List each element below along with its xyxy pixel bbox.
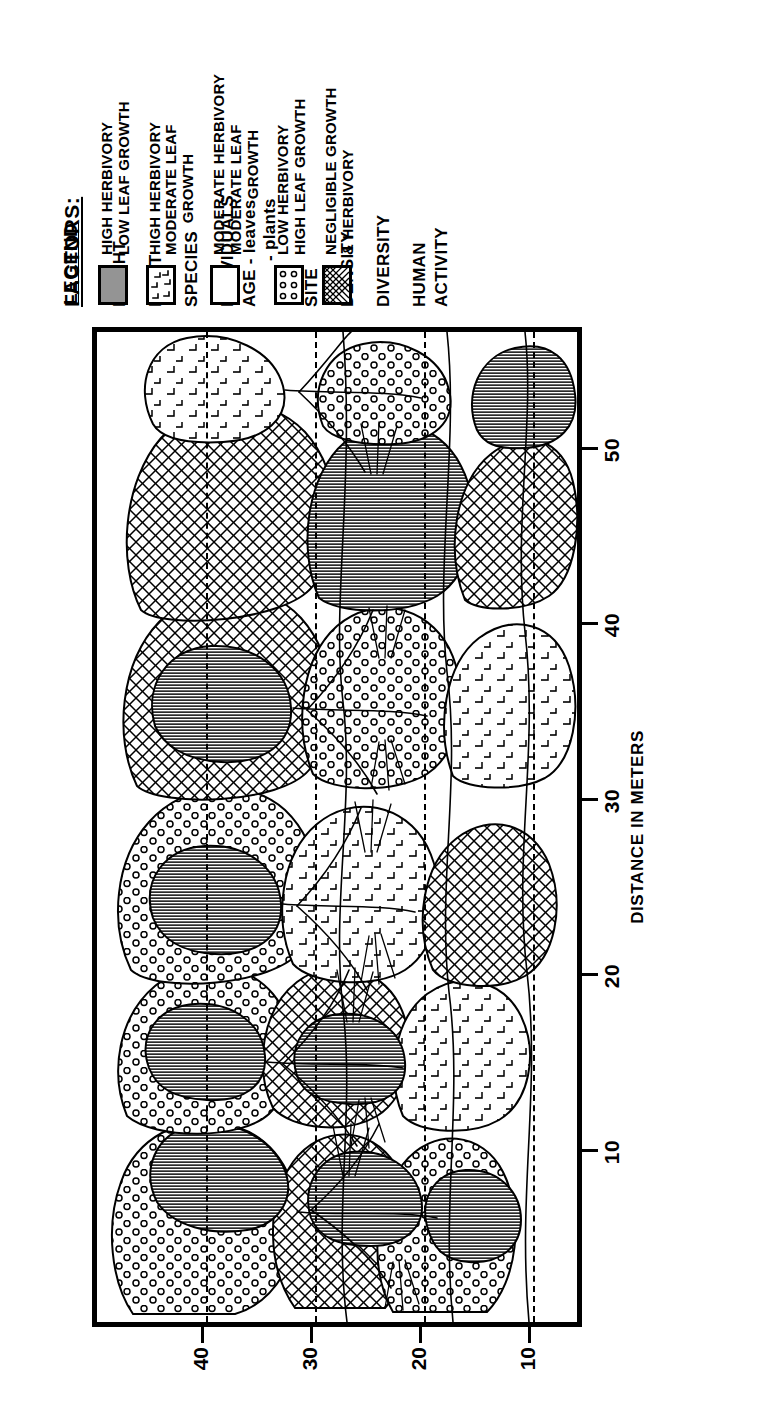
blank-swatch-icon xyxy=(210,265,240,305)
legend-entry-line: NEGLIGIBLE GROWTH xyxy=(323,87,340,255)
legend-entry-line: GROWTH xyxy=(180,122,197,255)
factor-item-human: HUMAN xyxy=(410,157,430,307)
legend-entry-text: HIGH HERBIVORY LOW LEAF GROWTH xyxy=(98,101,133,255)
y-tick-label: 30 xyxy=(298,1347,322,1370)
legend-entry-line: LOW LEAF GROWTH xyxy=(116,101,133,255)
legend-entry-line: HIGH HERBIVORY xyxy=(99,101,116,255)
x-tick-mark xyxy=(582,973,598,976)
zone-divider-30m xyxy=(424,332,426,1322)
y-tick-label: 20 xyxy=(407,1347,431,1370)
legend-entry-line: MODERATE LEAF xyxy=(228,74,245,255)
plot-block: 10 20 30 40 50 DISTANCE IN METERS 10 20 … xyxy=(92,327,582,1327)
x-axis-title: DISTANCE IN METERS xyxy=(628,730,648,924)
small-circles-swatch-icon xyxy=(274,265,304,305)
legend-entry-line: HIGH HERBIVORY xyxy=(147,122,164,255)
legend-entry: HIGH HERBIVORY MODERATE LEAF GROWTH xyxy=(146,5,197,305)
vegetation-scene xyxy=(97,332,577,1322)
legend-entry-line: GROWTH xyxy=(245,74,262,255)
legend-entry-text: LOW HERBIVORY HIGH LEAF GROWTH xyxy=(274,98,309,255)
vegetation-transect-figure: 10 20 30 40 50 DISTANCE IN METERS 10 20 … xyxy=(0,0,777,1417)
legend-entry-line: MODERATE LEAF xyxy=(163,122,180,255)
y-axis: 10 20 30 40 xyxy=(92,1327,582,1401)
x-tick-mark xyxy=(582,798,598,801)
plot-frame xyxy=(92,327,582,1327)
y-tick-mark xyxy=(201,1327,204,1343)
legend-entry-line: LOW HERBIVORY xyxy=(275,98,292,255)
x-tick-label: 20 xyxy=(600,964,624,988)
factor-item-diversity: DIVERSITY xyxy=(374,157,394,307)
x-axis: 10 20 30 40 50 DISTANCE IN METERS xyxy=(582,327,652,1327)
legend-entry-text: HIGH HERBIVORY MODERATE LEAF GROWTH xyxy=(146,122,197,255)
vertical-lines-swatch-icon xyxy=(98,265,128,305)
x-tick-mark xyxy=(582,622,598,625)
figure-rotation-wrapper: 10 20 30 40 50 DISTANCE IN METERS 10 20 … xyxy=(0,0,777,1417)
y-tick-label: 40 xyxy=(189,1347,213,1370)
x-tick-mark xyxy=(582,1149,598,1152)
y-tick-mark xyxy=(528,1327,531,1343)
legend-entry: MODERATE HERBIVORY MODERATE LEAF GROWTH xyxy=(210,5,261,305)
legend-entry: HIGH HERBIVORY LOW LEAF GROWTH xyxy=(98,5,133,305)
zone-divider-40m xyxy=(533,332,535,1322)
legend-entry: NEGLIGIBLE GROWTH & HERBIVORY xyxy=(322,5,357,305)
zone-divider-10m xyxy=(206,332,208,1322)
legend-entry-text: MODERATE HERBIVORY MODERATE LEAF GROWTH xyxy=(210,74,261,255)
x-tick-label: 50 xyxy=(600,438,624,462)
legend-title: LEGEND xyxy=(60,5,82,305)
scattered-l-marks-swatch-icon xyxy=(146,265,176,305)
factor-item-human-activity: ACTIVITY xyxy=(432,157,452,307)
x-tick-mark xyxy=(582,447,598,450)
cross-hatch-swatch-icon xyxy=(322,265,352,305)
legend-entry: LOW HERBIVORY HIGH LEAF GROWTH xyxy=(274,5,309,305)
legend-entry-line: HIGH LEAF GROWTH xyxy=(292,98,309,255)
y-tick-mark xyxy=(310,1327,313,1343)
legend-entry-line: MODERATE HERBIVORY xyxy=(211,74,228,255)
x-tick-label: 40 xyxy=(600,613,624,637)
legend: LEGEND HIGH HERBIVORY LOW LEAF GROWTH xyxy=(60,5,370,305)
x-tick-label: 10 xyxy=(600,1140,624,1164)
legend-entry-line: & HERBIVORY xyxy=(340,87,357,255)
x-tick-label: 30 xyxy=(600,789,624,813)
y-tick-mark xyxy=(419,1327,422,1343)
legend-entry-text: NEGLIGIBLE GROWTH & HERBIVORY xyxy=(322,87,357,255)
y-tick-label: 10 xyxy=(516,1347,540,1370)
zone-divider-20m xyxy=(315,332,317,1322)
